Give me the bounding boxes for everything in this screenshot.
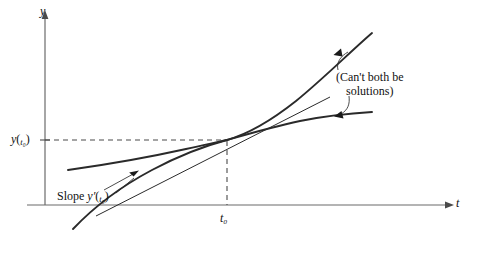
slope-leader [104,171,139,193]
slope-label: Slope y′(t₀) [57,189,109,205]
slope-close: ) [105,189,109,203]
solution-curve-flat [68,112,372,170]
y-axis-label: y [40,4,45,18]
cant-leader-upper-arrowhead [334,49,343,57]
cant-leader-lower [334,96,349,119]
cant-both-be-solutions-label: (Can't both be solutions) [336,70,403,98]
tangent-line [96,97,330,216]
t0-text: t₀ [220,211,228,225]
t-axis-arrowhead [445,202,454,209]
y-of-t0-close: ) [26,132,30,146]
solution-curve-steep [73,33,372,229]
t0-tick-label: t₀ [220,211,228,225]
cant-line-1: (Can't both be [336,70,403,84]
differential-equations-uniqueness-figure: y t y(t₀) t₀ Slope y′(t₀) (Can't both be… [0,0,489,255]
cant-line-2: solutions) [336,84,403,98]
y-axis [42,10,49,205]
t-axis-label: t [456,196,459,210]
slope-word: Slope [57,189,84,203]
figure-canvas [0,0,489,255]
y-of-t0-label: y(t₀) [11,132,30,148]
